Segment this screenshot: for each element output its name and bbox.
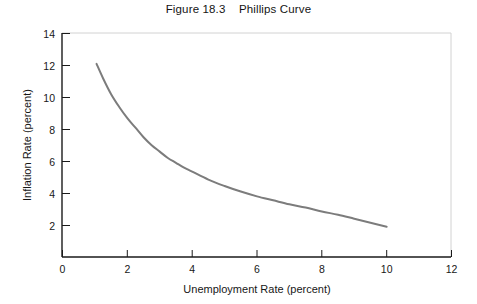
phillips-curve-chart: 14 12 10 8 6 4 2 Inflation Rate (percent… xyxy=(0,0,477,304)
y-tick-label-10: 10 xyxy=(43,92,55,104)
figure-container: Figure 18.3 Phillips Curve 14 12 xyxy=(0,0,477,304)
x-axis-ticks xyxy=(63,250,452,257)
x-axis-tick-labels: 0 2 4 6 8 10 12 xyxy=(60,263,458,275)
y-tick-label-12: 12 xyxy=(43,60,55,72)
y-axis-tick-labels: 14 12 10 8 6 4 2 xyxy=(43,28,55,232)
phillips-curve-line xyxy=(97,64,387,227)
y-tick-label-4: 4 xyxy=(49,188,55,200)
y-tick-label-2: 2 xyxy=(49,220,55,232)
x-tick-label-6: 6 xyxy=(254,263,260,275)
y-axis: 14 12 10 8 6 4 2 Inflation Rate (percent… xyxy=(0,0,70,257)
x-axis-title: Unemployment Rate (percent) xyxy=(183,283,330,295)
y-axis-ticks xyxy=(0,0,70,226)
x-tick-label-2: 2 xyxy=(124,263,130,275)
x-axis: 0 2 4 6 8 10 12 Unemployment Rate (perce… xyxy=(60,250,458,295)
y-tick-label-6: 6 xyxy=(49,156,55,168)
y-tick-label-14: 14 xyxy=(43,28,55,40)
y-tick-label-8: 8 xyxy=(49,124,55,136)
y-axis-title: Inflation Rate (percent) xyxy=(21,89,33,201)
x-tick-label-8: 8 xyxy=(319,263,325,275)
x-tick-label-10: 10 xyxy=(381,263,393,275)
x-tick-label-0: 0 xyxy=(60,263,66,275)
plot-frame xyxy=(62,33,451,257)
x-tick-label-4: 4 xyxy=(189,263,195,275)
x-tick-label-12: 12 xyxy=(446,263,458,275)
